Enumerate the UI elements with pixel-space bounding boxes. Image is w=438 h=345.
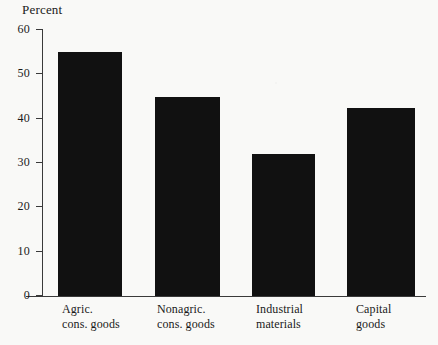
x-axis-category-label: Industrialmaterials bbox=[256, 302, 303, 331]
category-label-line-2: cons. goods bbox=[62, 317, 120, 332]
y-axis-tick-mark bbox=[36, 295, 43, 296]
y-axis-tick-mark bbox=[36, 162, 43, 163]
bar bbox=[347, 108, 415, 296]
y-axis-tick-label: 30 bbox=[0, 155, 30, 169]
y-axis-tick-label: 10 bbox=[0, 244, 30, 258]
category-label-line-1: Agric. bbox=[62, 302, 93, 316]
y-axis-tick-label: 40 bbox=[0, 111, 30, 125]
bar bbox=[155, 97, 220, 297]
y-axis-tick-mark bbox=[36, 251, 43, 252]
y-axis-tick-label: 50 bbox=[0, 66, 30, 80]
y-axis-tick-mark bbox=[36, 29, 43, 30]
y-axis-line bbox=[42, 30, 43, 297]
x-axis-category-label: Nonagric.cons. goods bbox=[157, 302, 215, 331]
category-label-line-2: goods bbox=[356, 317, 391, 332]
x-axis-category-label: Capitalgoods bbox=[356, 302, 391, 331]
category-label-line-1: Nonagric. bbox=[157, 302, 206, 316]
y-axis-tick-label: 0 bbox=[0, 288, 30, 302]
y-axis-tick-mark bbox=[36, 206, 43, 207]
y-axis-title: Percent bbox=[22, 2, 62, 17]
x-axis-line bbox=[26, 296, 426, 297]
category-label-line-2: cons. goods bbox=[157, 317, 215, 332]
y-axis-tick-label: 60 bbox=[0, 22, 30, 36]
bar bbox=[252, 154, 315, 296]
bar bbox=[58, 52, 122, 296]
chart-figure: Percent 0102030405060 Agric.cons. goodsN… bbox=[0, 0, 438, 345]
y-axis-tick-mark bbox=[36, 118, 43, 119]
x-axis-category-label: Agric.cons. goods bbox=[62, 302, 120, 331]
category-label-line-2: materials bbox=[256, 317, 303, 332]
y-axis-tick-label: 20 bbox=[0, 199, 30, 213]
y-axis-tick-mark bbox=[36, 73, 43, 74]
category-label-line-1: Capital bbox=[356, 302, 391, 316]
bar-chart-plot: Percent 0102030405060 Agric.cons. goodsN… bbox=[0, 0, 438, 345]
category-label-line-1: Industrial bbox=[256, 302, 303, 316]
